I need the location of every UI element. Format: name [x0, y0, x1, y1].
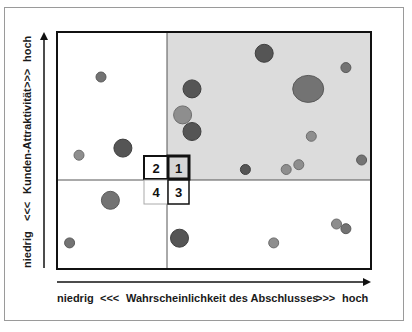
- bubble-point: [65, 238, 75, 248]
- bubble-point: [183, 123, 201, 141]
- quadrant-label-1: 1: [175, 161, 182, 176]
- x-axis-title: Wahrscheinlichkeit des Abschlusses: [126, 292, 318, 304]
- x-axis-arrows-high: >>>: [316, 292, 335, 304]
- bubble-point: [294, 160, 304, 170]
- bubble-point: [183, 80, 201, 98]
- quadrant-label-4: 4: [152, 185, 160, 200]
- y-axis-title: Kunden-Attraktivität: [21, 88, 33, 194]
- bubble-point: [174, 106, 192, 124]
- bubble-point: [332, 219, 342, 229]
- bubble-point: [96, 72, 106, 82]
- bubble-point: [269, 238, 279, 248]
- y-axis-arrowhead-icon: [40, 32, 48, 40]
- bubble-point: [306, 131, 316, 141]
- x-axis-high-label: hoch: [342, 292, 369, 304]
- x-axis-arrowhead-icon: [363, 278, 371, 286]
- x-axis-label: niedrig <<< Wahrscheinlichkeit des Absch…: [57, 292, 369, 304]
- x-axis-low-label: niedrig: [57, 292, 94, 304]
- quadrant-label-2: 2: [152, 161, 159, 176]
- bubble-point: [293, 75, 324, 102]
- bubble-point: [240, 165, 250, 175]
- quadrant-legend: 2 1 4 3: [144, 156, 189, 204]
- y-axis-label: niedrig <<< Kunden-Attraktivität >>> hoc…: [21, 35, 33, 268]
- portfolio-bubble-chart: 2 1 4 3 niedrig <<< Wahrscheinlichkeit d…: [0, 0, 412, 332]
- x-axis-arrows-low: <<<: [100, 292, 119, 304]
- bubble-point: [74, 150, 84, 160]
- y-axis-high-label: hoch: [21, 35, 33, 62]
- bubble-point: [341, 224, 351, 234]
- quadrant-label-3: 3: [175, 185, 182, 200]
- bubble-point: [114, 139, 132, 157]
- y-axis-low-label: niedrig: [21, 231, 33, 268]
- y-axis-arrows-high: >>>: [21, 69, 33, 88]
- bubble-point: [357, 155, 367, 165]
- bubble-point: [281, 165, 291, 175]
- bubble-point: [255, 44, 273, 62]
- bubble-point: [171, 229, 189, 247]
- bubble-point: [101, 191, 119, 209]
- bubble-point: [341, 63, 351, 73]
- y-axis-arrows-low: <<<: [21, 202, 33, 221]
